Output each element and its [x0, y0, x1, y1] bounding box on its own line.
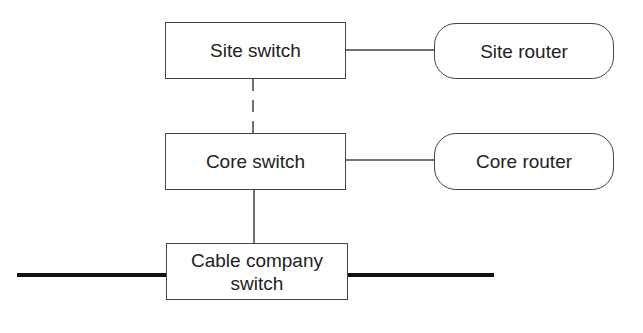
site-switch-node: Site switch	[165, 22, 346, 79]
core-router-label: Core router	[476, 150, 572, 173]
site-switch-label: Site switch	[210, 39, 301, 62]
cable-company-switch-node: Cable company switch	[166, 243, 348, 300]
core-switch-node: Core switch	[165, 133, 346, 190]
site-router-node: Site router	[434, 23, 614, 79]
core-router-node: Core router	[434, 133, 614, 190]
cable-company-switch-label: Cable company switch	[191, 249, 323, 295]
site-router-label: Site router	[480, 40, 568, 63]
core-switch-label: Core switch	[206, 150, 305, 173]
